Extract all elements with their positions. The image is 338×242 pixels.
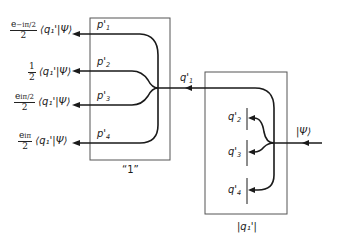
- port-label-p3: p'3: [97, 91, 110, 103]
- left-box-label: “1”: [122, 165, 139, 175]
- connector-path: [158, 88, 274, 143]
- port-label-q2: q'2: [228, 112, 241, 124]
- port-label-p4: p'4: [97, 129, 110, 141]
- amplitude-label-4: eiπ2 ⟨q₁'|Ψ⟩: [18, 131, 68, 152]
- amplitude-label-2: 12 ⟨q₁'|Ψ⟩: [28, 62, 71, 83]
- right-box-label: |q₁'|: [237, 222, 257, 232]
- port-label-q4: q'4: [228, 185, 241, 197]
- amplitude-label-3: eiπ/22 ⟨q₁'|Ψ⟩: [14, 92, 70, 113]
- port-label-p2: p'2: [97, 57, 110, 69]
- connector-arrow: [185, 85, 192, 91]
- amplitude-label-1: e−iπ/22 ⟨q₁'|Ψ⟩: [10, 20, 72, 41]
- port-label-p1: p'1: [97, 20, 110, 32]
- port-label-q3: q'3: [228, 147, 241, 159]
- left-arrowheads: [72, 31, 80, 146]
- connector-label-q1: q'1: [180, 73, 193, 85]
- input-state-label: |Ψ⟩: [296, 127, 311, 137]
